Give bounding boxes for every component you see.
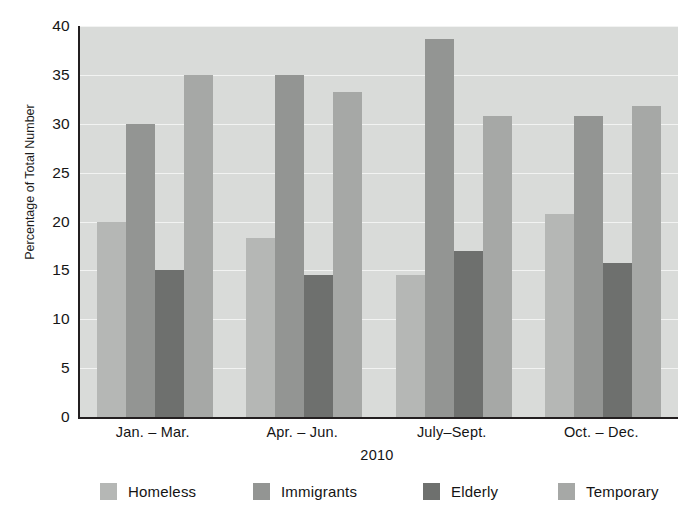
x-axis-tick-label: Apr. – Jun.: [266, 424, 338, 440]
bar[interactable]: [246, 238, 275, 417]
legend-item[interactable]: Homeless: [100, 483, 196, 500]
bar[interactable]: [275, 75, 304, 417]
bar[interactable]: [454, 251, 483, 417]
bar[interactable]: [184, 75, 213, 417]
bar-groups-layer: [80, 26, 678, 417]
y-axis-tick-label: 0: [8, 408, 70, 426]
bar-group: [545, 26, 661, 417]
bar[interactable]: [632, 106, 661, 417]
legend-item[interactable]: Immigrants: [253, 483, 357, 500]
y-axis-tick-label: 15: [8, 261, 70, 279]
legend-swatch-icon: [423, 483, 440, 500]
y-axis-tick-label: 30: [8, 115, 70, 133]
legend-item[interactable]: Elderly: [423, 483, 498, 500]
bar[interactable]: [574, 116, 603, 417]
y-axis-tick-label: 35: [8, 66, 70, 84]
x-axis-title: 2010: [78, 447, 676, 463]
bar[interactable]: [545, 214, 574, 417]
plot-area: [78, 26, 678, 419]
y-axis-tick-labels: 0510152025303540: [0, 0, 70, 440]
bar-group: [246, 26, 362, 417]
y-axis-tick-label: 10: [8, 310, 70, 328]
y-axis-tick-label: 40: [8, 17, 70, 35]
bar[interactable]: [333, 92, 362, 418]
x-axis-tick-label: Oct. – Dec.: [564, 424, 639, 440]
bar[interactable]: [483, 116, 512, 417]
bar[interactable]: [425, 39, 454, 417]
bar[interactable]: [97, 222, 126, 418]
bar[interactable]: [603, 263, 632, 417]
x-axis-tick-labels: Jan. – Mar.Apr. – Jun.July–Sept.Oct. – D…: [78, 424, 676, 448]
x-axis-tick-label: Jan. – Mar.: [116, 424, 190, 440]
bar-group: [97, 26, 213, 417]
y-axis-tick-label: 20: [8, 213, 70, 231]
legend-swatch-icon: [100, 483, 117, 500]
x-axis-tick-label: July–Sept.: [417, 424, 487, 440]
legend-item[interactable]: Temporary: [558, 483, 659, 500]
legend-label: Homeless: [128, 483, 196, 500]
bar[interactable]: [304, 275, 333, 417]
bar[interactable]: [155, 270, 184, 417]
chart-title-clipped: [0, 0, 690, 5]
bar[interactable]: [126, 124, 155, 417]
bar-chart-figure: Percentage of Total Number 0510152025303…: [0, 0, 690, 525]
legend-label: Elderly: [451, 483, 498, 500]
y-axis-tick-label: 5: [8, 359, 70, 377]
legend-label: Temporary: [586, 483, 659, 500]
bar[interactable]: [396, 275, 425, 417]
legend-label: Immigrants: [281, 483, 357, 500]
legend-swatch-icon: [558, 483, 575, 500]
y-axis-tick-label: 25: [8, 164, 70, 182]
legend-swatch-icon: [253, 483, 270, 500]
chart-legend: HomelessImmigrantsElderlyTemporary: [78, 483, 682, 509]
bar-group: [396, 26, 512, 417]
